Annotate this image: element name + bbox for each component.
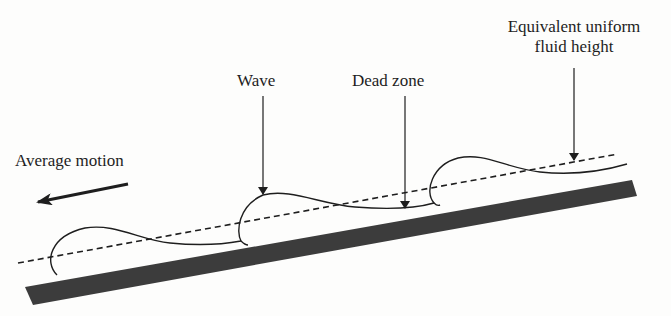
roll-wave-diagram: Equivalent uniform fluid height Wave Dea… xyxy=(0,0,671,316)
dead-zone-label: Dead zone xyxy=(352,71,424,91)
wave-profile xyxy=(51,157,627,275)
equivalent-height-label: Equivalent uniform fluid height xyxy=(490,17,658,57)
average-motion-arrow xyxy=(38,184,128,202)
wave-curl xyxy=(434,203,440,205)
wave-label: Wave xyxy=(237,71,275,91)
average-motion-label: Average motion xyxy=(15,151,124,171)
wave-curl xyxy=(241,241,248,245)
equivalent-height-label-line1: Equivalent uniform xyxy=(490,17,658,37)
equivalent-height-label-line2: fluid height xyxy=(490,37,658,57)
inclined-ground-plane xyxy=(25,180,637,305)
